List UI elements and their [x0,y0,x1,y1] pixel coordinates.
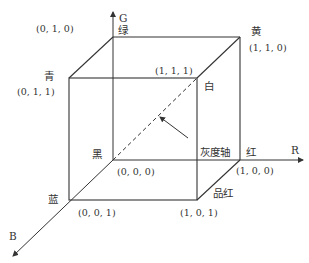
gray-axis-line [113,78,197,160]
white-vertex-coord: (1, 1, 1) [155,65,193,76]
g-axis-label: G [119,12,127,24]
red-vertex-coord: (1, 0, 0) [236,165,274,176]
gray-axis-label: 灰度轴 [200,146,230,158]
b-axis-label: B [9,230,17,242]
gray-axis-pointer-arrow [160,117,188,138]
rgb-cube-diagram: G 绿 R B (0, 1, 0) 黄 (1, 1, 0) 青 (0, 1, 1… [0,0,309,263]
magenta-vertex-coord: (1, 0, 1) [180,207,218,218]
cyan-vertex-coord: (0, 1, 1) [17,86,55,97]
r-axis-label: R [291,144,300,156]
red-vertex-label: 红 [246,146,257,158]
black-vertex-coord: (0, 0, 0) [117,166,155,177]
yellow-vertex-coord: (1, 1, 0) [249,42,287,53]
black-vertex-label: 黑 [92,148,102,160]
blue-vertex-label: 蓝 [48,193,59,205]
cyan-vertex-label: 青 [44,70,54,82]
blue-vertex-coord: (0, 0, 1) [78,207,116,218]
white-vertex-label: 白 [204,80,214,92]
green-vertex-coord: (0, 1, 0) [36,23,74,34]
g-axis-color-label: 绿 [118,24,129,36]
yellow-vertex-label: 黄 [251,25,261,37]
magenta-vertex-label: 品红 [213,187,234,199]
